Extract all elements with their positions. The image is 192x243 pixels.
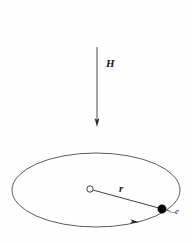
magnetic-field-arrow — [95, 47, 100, 127]
field-label: H — [105, 57, 115, 69]
charge-label: –e — [170, 206, 180, 216]
physics-figure: H r –e — [0, 0, 192, 243]
orbit-radius-line — [94, 190, 160, 208]
electron-filled-dot — [158, 205, 166, 213]
electron-orbit-ellipse — [12, 153, 180, 227]
radius-label: r — [119, 182, 124, 194]
figure-canvas: H r –e — [0, 0, 192, 243]
nucleus-open-circle — [87, 186, 93, 192]
orbit-direction-arrowhead-icon — [130, 219, 139, 223]
